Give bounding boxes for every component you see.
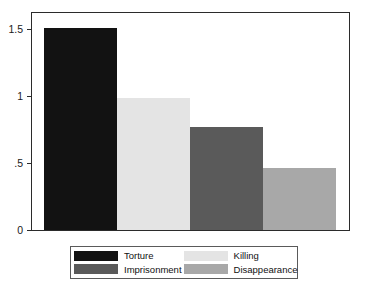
- y-tick-label-0: 0: [17, 225, 23, 236]
- bar-imprisonment: [190, 127, 263, 230]
- legend-swatch-torture: [74, 251, 118, 261]
- plot-area: [31, 12, 350, 231]
- legend-label-torture: Torture: [124, 251, 154, 261]
- legend-item-disappearance: Disappearance: [184, 263, 298, 277]
- plot-inner: [32, 13, 349, 230]
- legend: TortureKillingImprisonmentDisappearance: [70, 246, 298, 279]
- legend-grid: TortureKillingImprisonmentDisappearance: [74, 249, 294, 276]
- legend-swatch-killing: [184, 251, 228, 261]
- legend-item-killing: Killing: [184, 249, 298, 263]
- bars-container: [44, 12, 336, 230]
- legend-label-disappearance: Disappearance: [234, 265, 298, 275]
- legend-label-imprisonment: Imprisonment: [124, 265, 182, 275]
- bar-torture: [44, 28, 117, 230]
- y-tick-label-1: 1: [17, 91, 23, 102]
- y-axis: 1.5 1 .5 0: [0, 0, 31, 285]
- legend-swatch-imprisonment: [74, 264, 118, 274]
- bar-disappearance: [263, 168, 336, 230]
- y-tick-label-1.5: 1.5: [8, 24, 23, 35]
- bar-killing: [117, 98, 190, 230]
- legend-swatch-disappearance: [184, 264, 228, 274]
- y-tick-label-0.5: .5: [14, 158, 23, 169]
- legend-item-imprisonment: Imprisonment: [74, 263, 182, 277]
- legend-item-torture: Torture: [74, 249, 182, 263]
- bar-chart-figure: 1.5 1 .5 0 TortureKillingImprisonmentDis…: [0, 0, 365, 285]
- legend-label-killing: Killing: [234, 251, 259, 261]
